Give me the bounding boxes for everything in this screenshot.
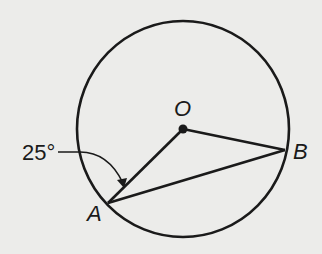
label-b: B xyxy=(293,141,308,163)
geometry-diagram: O A B 25° xyxy=(0,0,322,254)
radius-ob xyxy=(183,129,285,150)
label-o: O xyxy=(174,98,191,120)
angle-label: 25° xyxy=(22,142,55,164)
angle-leader-arrow xyxy=(58,152,123,183)
label-a: A xyxy=(87,203,102,225)
diagram-canvas xyxy=(0,0,322,254)
center-point-o xyxy=(179,125,188,134)
